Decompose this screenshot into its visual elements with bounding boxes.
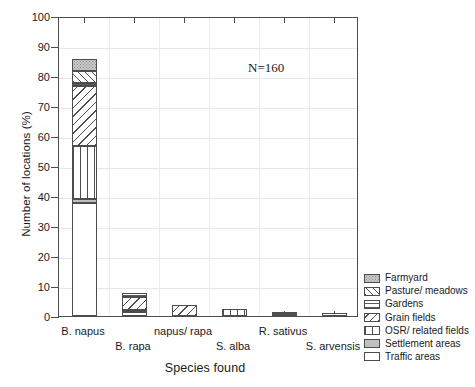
bar-s-arvensis	[322, 313, 347, 316]
y-axis-tick	[51, 167, 59, 168]
x-axis-tick-top	[334, 18, 335, 23]
y-axis-tick-label: 0	[6, 311, 50, 323]
gridline-horizontal	[59, 228, 357, 229]
y-axis-tick-label: 70	[6, 101, 50, 113]
x-axis-category-label: S. alba	[216, 340, 250, 352]
y-axis-tick	[51, 107, 59, 108]
legend-item: Settlement areas	[364, 337, 469, 350]
gridline-horizontal	[59, 258, 357, 259]
gridline-horizontal	[59, 288, 357, 289]
bar-segment-grain	[172, 305, 197, 316]
bar-segment-osr	[222, 309, 247, 317]
bar-segment-gardens	[122, 293, 147, 297]
y-axis-tick	[51, 17, 59, 18]
y-axis-tick	[51, 47, 59, 48]
y-axis-tick	[51, 227, 59, 228]
plot-inner	[59, 18, 357, 316]
gridline-horizontal	[59, 168, 357, 169]
y-axis-tick	[51, 317, 59, 318]
legend-label: Gardens	[385, 299, 423, 309]
legend-item: Pasture/ meadows	[364, 285, 469, 298]
bar-segment-settlement	[272, 312, 297, 314]
gridline-horizontal	[59, 198, 357, 199]
legend-label: Settlement areas	[385, 339, 461, 349]
legend-swatch-traffic	[364, 352, 380, 361]
bar-segment-farmyard	[72, 59, 97, 71]
y-axis-tick	[51, 197, 59, 198]
y-axis-tick-label: 50	[6, 161, 50, 173]
y-axis-tick	[51, 77, 59, 78]
legend-swatch-grain	[364, 313, 380, 322]
legend-label: Pasture/ meadows	[385, 286, 468, 296]
bar-segment-traffic	[272, 314, 297, 316]
legend-item: Traffic areas	[364, 351, 469, 364]
y-axis-tick-label: 40	[6, 191, 50, 203]
bar-b-rapa	[122, 293, 147, 316]
legend-label: OSR/ related fields	[385, 326, 469, 336]
y-axis-tick-label: 80	[6, 71, 50, 83]
bar-r-sativus	[272, 312, 297, 316]
gridline-vertical	[209, 18, 210, 316]
y-axis-tick-label: 100	[6, 11, 50, 23]
legend-swatch-farmyard	[364, 274, 380, 283]
bar-segment-settlement	[72, 199, 97, 203]
legend-label: Farmyard	[385, 273, 428, 283]
legend-label: Grain fields	[385, 313, 436, 323]
bar-segment-pasture	[72, 71, 97, 82]
gridline-horizontal	[59, 78, 357, 79]
legend-item: OSR/ related fields	[364, 324, 469, 337]
legend-item: Gardens	[364, 298, 469, 311]
x-axis-tick-top	[284, 18, 285, 23]
bar-segment-grain	[122, 297, 147, 310]
bar-segment-settlement	[122, 310, 147, 312]
bar-segment-traffic	[72, 203, 97, 316]
y-axis-tick	[51, 287, 59, 288]
bar-segment-traffic	[322, 313, 347, 316]
legend-item: Grain fields	[364, 311, 469, 324]
bar-segment-gardens	[72, 83, 97, 86]
plot-area	[58, 17, 358, 317]
y-axis-tick	[51, 257, 59, 258]
sample-size-annotation: N=160	[248, 60, 284, 76]
x-axis-category-label: R. sativus	[259, 325, 307, 337]
x-axis-tick-top	[184, 18, 185, 23]
legend-swatch-settlement	[364, 339, 380, 348]
y-axis-tick	[51, 137, 59, 138]
chart-figure: Number of locations (%) Species found N=…	[0, 0, 475, 387]
gridline-vertical	[159, 18, 160, 316]
gridline-horizontal	[59, 48, 357, 49]
x-axis-tick-top	[234, 18, 235, 23]
bar-b-napus	[72, 59, 97, 316]
gridline-horizontal	[59, 108, 357, 109]
y-axis-tick-label: 20	[6, 251, 50, 263]
legend-item: Farmyard	[364, 272, 469, 285]
x-axis-tick-top	[84, 18, 85, 23]
bar-segment-grain	[72, 86, 97, 146]
legend-swatch-osr	[364, 326, 380, 335]
y-axis-tick-label: 10	[6, 281, 50, 293]
x-axis-category-label: B. rapa	[115, 340, 150, 352]
legend-swatch-pasture	[364, 287, 380, 296]
gridline-horizontal	[59, 138, 357, 139]
y-axis-tick-label: 60	[6, 131, 50, 143]
y-axis-tick-label: 30	[6, 221, 50, 233]
gridline-vertical	[109, 18, 110, 316]
bar-segment-osr	[72, 146, 97, 199]
x-axis-category-label: S. arvensis	[306, 340, 360, 352]
bar-napus-rapa	[172, 305, 197, 316]
legend-swatch-gardens	[364, 300, 380, 309]
x-axis-tick-top	[134, 18, 135, 23]
legend-label: Traffic areas	[385, 352, 440, 362]
bar-segment-traffic	[122, 312, 147, 316]
x-axis-title: Species found	[55, 361, 355, 375]
x-axis-category-label: B. napus	[61, 325, 104, 337]
legend: FarmyardPasture/ meadowsGardensGrain fie…	[364, 272, 469, 364]
gridline-vertical	[309, 18, 310, 316]
bar-s-alba	[222, 309, 247, 317]
x-axis-category-label: napus/ rapa	[154, 325, 212, 337]
y-axis-tick-label: 90	[6, 41, 50, 53]
